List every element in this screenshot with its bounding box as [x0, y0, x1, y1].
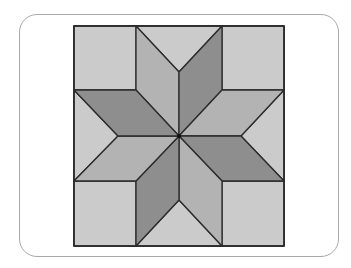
corner-square-top-left	[74, 26, 136, 90]
corner-square-bottom-right	[222, 181, 284, 246]
corner-square-top-right	[222, 26, 284, 90]
center-point	[177, 134, 181, 138]
quilt-star-diagram	[0, 0, 351, 268]
corner-square-bottom-left	[74, 181, 136, 246]
